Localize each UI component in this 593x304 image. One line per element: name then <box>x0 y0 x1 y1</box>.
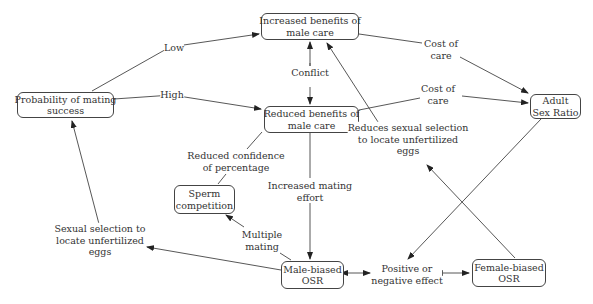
edge-cost1 <box>359 34 422 43</box>
label-positive-or-negative-effect: Positive or negative effect <box>371 263 442 286</box>
label-low: Low <box>164 42 184 54</box>
node-adult-sex-ratio: Adult Sex Ratio <box>530 94 581 119</box>
node-label: Increased benefits of male care <box>259 15 360 38</box>
node-probability-of-mating-success: Probability of mating success <box>17 92 114 118</box>
edge-high <box>114 95 261 109</box>
node-male-biased-osr: Male-biased OSR <box>281 261 344 289</box>
node-label: Female-biased OSR <box>474 262 544 285</box>
node-reduced-benefits: Reduced benefits of male care <box>264 106 359 133</box>
node-label: Adult Sex Ratio <box>532 95 578 118</box>
node-sperm-competition: Sperm competition <box>174 185 235 214</box>
label-reduces-sexual-selection: Reduces sexual selection to locate unfer… <box>348 122 469 157</box>
node-label: Probability of mating success <box>15 94 117 117</box>
node-label: Male-biased OSR <box>283 264 342 287</box>
label-conflict: Conflict <box>291 67 329 79</box>
edge-cost2 <box>359 98 420 110</box>
label-cost-of-care-1: Cost of care <box>424 38 458 61</box>
label-cost-of-care-2: Cost of care <box>421 83 455 106</box>
node-increased-benefits: Increased benefits of male care <box>261 13 359 40</box>
node-label: Reduced benefits of male care <box>264 108 360 131</box>
label-increased-mating-effort: Increased mating effort <box>268 180 352 203</box>
edge-multiple <box>226 215 244 227</box>
label-high: High <box>160 89 184 101</box>
label-reduced-confidence: Reduced confidence of percentage <box>187 150 284 173</box>
node-label: Sperm competition <box>176 188 233 211</box>
label-sexual-selection: Sexual selection to locate unfertilized … <box>54 223 145 258</box>
node-female-biased-osr: Female-biased OSR <box>472 259 546 287</box>
label-multiple-mating: Multiple mating <box>242 229 282 252</box>
concept-diagram: Probability of mating success Increased … <box>0 0 593 304</box>
